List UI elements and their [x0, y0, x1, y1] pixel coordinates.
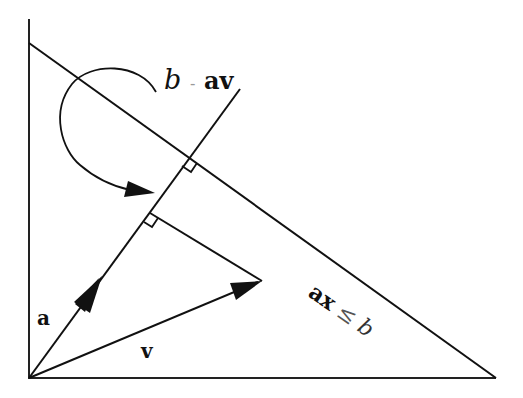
right-angle-marker-projection — [144, 218, 158, 227]
label-b-minus-av: b - av — [164, 66, 233, 93]
label-vector-v: v — [141, 341, 153, 361]
curved-arrow-b-minus-av — [60, 68, 156, 190]
curved-arrowhead-icon — [124, 181, 155, 197]
label-av: av — [204, 66, 234, 95]
constraint-line — [29, 43, 496, 378]
perpendicular-v-to-a — [150, 213, 262, 281]
vector-v-arrowhead — [230, 281, 262, 300]
label-b: b — [164, 64, 181, 95]
label-minus: - — [190, 74, 195, 93]
diagram-canvas — [0, 0, 523, 398]
label-vector-a: a — [37, 308, 50, 328]
vector-a-arrowhead — [74, 276, 102, 313]
